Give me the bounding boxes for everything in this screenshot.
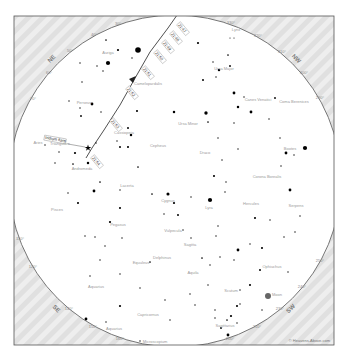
sky-chart: 21:4721:4821:4921:5021:5121:5221:5321:54… <box>0 0 350 362</box>
star <box>233 92 236 95</box>
star <box>177 214 179 216</box>
star <box>67 192 68 193</box>
star <box>237 106 240 109</box>
constellation-label: Camelopardalis <box>134 81 162 86</box>
constellation-label: Equuleus <box>133 260 150 265</box>
star <box>287 271 288 272</box>
star <box>135 47 141 53</box>
constellation-label: Aquila <box>187 270 199 275</box>
star <box>190 237 191 238</box>
star <box>285 152 288 155</box>
star <box>105 39 107 41</box>
star <box>237 249 240 252</box>
star <box>212 61 213 62</box>
constellation-label: Moon <box>272 292 282 297</box>
star <box>259 269 261 271</box>
star <box>227 54 229 56</box>
azimuth-label: 300° <box>300 70 309 75</box>
star <box>230 315 232 317</box>
star <box>190 196 191 197</box>
star <box>119 305 121 307</box>
constellation-label: Pisces <box>51 207 63 212</box>
star <box>163 213 164 214</box>
constellation-label: Canes Venatici <box>245 97 272 102</box>
constellation-label: Lynx <box>232 27 240 32</box>
azimuth-label: 110° <box>16 236 24 241</box>
constellation-label: Delphinus <box>153 255 171 260</box>
star <box>237 148 238 149</box>
star <box>214 317 215 318</box>
star <box>100 111 101 112</box>
star <box>87 162 90 165</box>
star <box>213 175 215 177</box>
constellation-label: Scutum <box>224 288 238 293</box>
star <box>204 111 207 114</box>
star <box>99 259 100 260</box>
star <box>116 140 117 141</box>
star <box>201 257 203 259</box>
star <box>250 111 253 114</box>
star <box>229 37 230 38</box>
constellation-label: Draco <box>200 150 211 155</box>
star <box>139 340 140 341</box>
star <box>44 144 45 145</box>
constellation-label: Aries <box>33 140 42 145</box>
credit-text: © Heavens-Above.com <box>289 338 331 343</box>
constellation-label: Sagittarius <box>216 323 235 328</box>
constellation-label: Triangulum <box>50 141 71 146</box>
star <box>194 304 195 305</box>
azimuth-label: 250° <box>316 258 325 263</box>
constellation-label: Hercules <box>243 201 259 206</box>
star <box>239 289 240 290</box>
star <box>289 189 292 192</box>
constellation-label: Ursa Major <box>214 66 234 71</box>
constellation-label: Cassiopeia <box>114 130 135 135</box>
star <box>261 309 262 310</box>
star <box>225 181 226 182</box>
star <box>117 49 119 51</box>
star <box>303 146 307 150</box>
star <box>74 152 76 154</box>
star <box>215 76 216 77</box>
star <box>299 215 300 216</box>
star <box>280 165 281 166</box>
star <box>219 256 220 257</box>
star <box>274 97 276 99</box>
constellation-label: Pegasus <box>110 222 126 227</box>
star <box>127 127 129 129</box>
star <box>119 146 121 148</box>
star <box>89 275 90 276</box>
star <box>151 193 153 195</box>
star <box>202 79 204 81</box>
star <box>239 303 240 304</box>
star <box>121 237 122 238</box>
constellation-label: Cepheus <box>150 143 166 148</box>
star <box>54 162 55 163</box>
moon-icon <box>265 293 271 299</box>
constellation-label: Auriga <box>102 50 114 55</box>
star <box>96 65 97 66</box>
star <box>95 142 96 143</box>
constellation-label: Capricornus <box>137 312 159 317</box>
star <box>226 319 228 321</box>
star <box>268 118 269 119</box>
azimuth-label: 60° <box>46 70 52 75</box>
star <box>102 70 103 71</box>
star <box>79 107 80 108</box>
star <box>127 146 129 148</box>
star <box>294 231 295 232</box>
azimuth-label: 290° <box>316 95 325 100</box>
star <box>254 217 256 219</box>
star <box>77 202 79 204</box>
constellation-label: Cygnus <box>161 198 175 203</box>
constellation-label: Serpens <box>289 203 304 208</box>
azimuth-label: 200° <box>226 336 235 341</box>
star <box>164 299 165 300</box>
star <box>105 321 106 322</box>
star <box>79 62 80 63</box>
star <box>169 319 170 320</box>
constellation-label: Perseus <box>77 100 92 105</box>
star <box>139 287 140 288</box>
azimuth-label: 240° <box>298 284 307 289</box>
star <box>58 151 59 152</box>
